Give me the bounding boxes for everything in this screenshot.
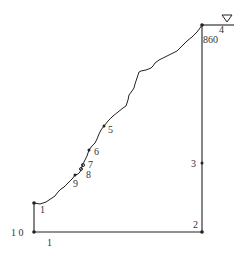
node-10 — [32, 230, 36, 234]
node-3 — [201, 162, 204, 165]
node-5 — [103, 125, 106, 128]
node-label-8: 8 — [86, 169, 91, 180]
node-label-4: 4 — [219, 24, 224, 35]
nodes — [32, 23, 204, 234]
boundary-lines — [34, 25, 234, 232]
node-label-6: 6 — [94, 146, 99, 157]
slope-surface-profile — [34, 25, 202, 204]
slope-diagram: 1 0 1 1 9 8 7 6 5 4 860 3 2 — [0, 0, 246, 256]
node-label-7: 7 — [88, 159, 93, 170]
node-6 — [88, 149, 91, 152]
node-label-5: 5 — [108, 124, 113, 135]
node-label-9: 9 — [73, 178, 78, 189]
node-label-3: 3 — [191, 158, 196, 169]
node-label-2: 2 — [193, 219, 198, 230]
node-label-1: 1 — [40, 204, 45, 215]
water-table-icon — [222, 15, 232, 22]
node-4 — [200, 23, 204, 27]
node-9 — [74, 174, 77, 177]
node-label-10: 1 0 — [11, 227, 24, 238]
node-1 — [32, 201, 36, 205]
node-2 — [200, 230, 204, 234]
bottom-boundary-label: 1 — [47, 237, 52, 248]
elevation-label: 860 — [203, 34, 218, 45]
